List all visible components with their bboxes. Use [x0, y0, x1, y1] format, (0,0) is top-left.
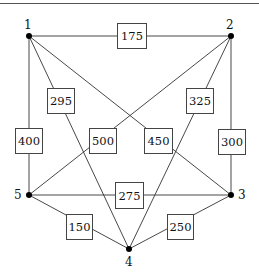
node-4-label: 4	[125, 256, 133, 268]
weight-box-2-5: 500	[89, 128, 117, 154]
node-1-label: 1	[24, 19, 32, 31]
node-2-label: 2	[226, 19, 234, 31]
weight-box-1-5: 400	[15, 128, 43, 154]
weight-box-5-3: 275	[115, 182, 144, 209]
node-3-label: 3	[238, 189, 246, 201]
weight-box-1-3: 450	[144, 128, 173, 154]
weight-box-3-4: 250	[167, 214, 194, 240]
weight-box-5-4: 150	[66, 214, 93, 240]
node-3-dot	[228, 192, 234, 198]
weight-box-1-2: 175	[117, 23, 147, 49]
node-1-dot	[26, 33, 32, 39]
node-5-label: 5	[14, 189, 22, 201]
weight-box-1-4: 295	[47, 88, 75, 114]
node-2-dot	[228, 33, 234, 39]
weight-box-2-4: 325	[186, 88, 214, 114]
graph-diagram: 1 2 3 4 5 175 400 295 450 300 325 500 27…	[0, 0, 259, 278]
node-5-dot	[26, 192, 32, 198]
node-4-dot	[126, 246, 132, 252]
weight-box-2-3: 300	[218, 129, 246, 155]
